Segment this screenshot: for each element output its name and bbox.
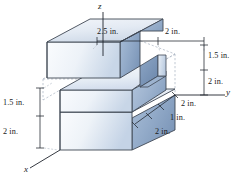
axis-label-z: z	[98, 2, 102, 11]
face-base-front	[60, 112, 132, 150]
face-notch-right-wall	[158, 55, 166, 76]
dimension-label-left-upper: 1.5 in.	[3, 99, 24, 107]
dimension-label-left-lower: 2 in.	[3, 128, 18, 136]
dimension-label-right-upper: 1.5 in.	[208, 52, 229, 60]
axis-label-x: x	[24, 165, 28, 174]
engineering-figure: 2.5 in. 2 in. 1.5 in. 2 in. 1.5 in. 2 in…	[0, 0, 237, 178]
ext-left-c	[44, 148, 58, 150]
dimension-label-right-lower: 2 in.	[208, 78, 223, 86]
dimension-label-depth-third: 2 in.	[155, 128, 170, 136]
dimension-label-top-left-span: 2.5 in.	[97, 28, 118, 36]
ext-left-a	[44, 83, 52, 88]
dimension-label-top-right-span: 2 in.	[165, 28, 180, 36]
face-tall-front	[47, 42, 120, 78]
hidden-edge-lower-left-diag	[43, 90, 60, 100]
dimension-label-depth-first: 2 in.	[181, 100, 196, 108]
axis-label-y: y	[226, 88, 230, 97]
dimension-label-depth-second: 1 in.	[170, 114, 185, 122]
figure-canvas	[0, 0, 237, 178]
face-middle-front	[60, 90, 132, 112]
axis-x-line	[30, 150, 60, 168]
